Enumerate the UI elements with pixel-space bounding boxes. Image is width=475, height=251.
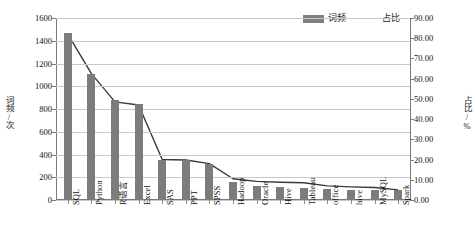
gridline (56, 109, 410, 110)
y-tick-label-right: 40.00 (414, 115, 433, 124)
y-tick-label-right: 30.00 (414, 135, 433, 144)
x-axis-labels: SQLPythonR语言ExcelSASPPTSPSSHadoopOracleH… (56, 202, 410, 251)
y-tick-label-right: 90.00 (414, 14, 433, 23)
y-tick-mark-right (410, 160, 414, 161)
y-tick-label-left: 200 (6, 173, 52, 182)
x-tick-label: Excel (143, 185, 152, 205)
y-tick-mark-right (410, 99, 414, 100)
y-axis-right: 0.0010.0020.0030.0040.0050.0060.0070.008… (414, 0, 462, 251)
y-tick-label-right: 60.00 (414, 75, 433, 84)
x-tick-label: office (331, 185, 340, 205)
y-tick-label-left: 400 (6, 151, 52, 160)
x-tick-label: Oracle (261, 182, 270, 205)
bar (64, 33, 72, 200)
y-tick-mark-left (52, 200, 56, 201)
y-tick-label-right: 20.00 (414, 156, 433, 165)
y-tick-mark-left (52, 18, 56, 19)
y-tick-mark-left (52, 155, 56, 156)
y-tick-mark-right (410, 180, 414, 181)
y-tick-label-left: 1600 (6, 14, 52, 23)
x-tick-label: Python (95, 180, 104, 205)
combo-chart: 词频 占比 词频/次 占比/% 020040060080010001200140… (0, 0, 475, 251)
y-tick-label-right: 80.00 (414, 34, 433, 43)
y-tick-label-left: 1200 (6, 60, 52, 69)
y-axis-left: 02004006008001000120014001600 (0, 0, 52, 251)
gridline (56, 41, 410, 42)
gridline (56, 86, 410, 87)
x-tick-label: Hive (284, 188, 293, 205)
x-tick-label: SQL (72, 189, 81, 205)
y-tick-label-right: 50.00 (414, 95, 433, 104)
y-axis-right-line (410, 18, 411, 200)
x-tick-label: Tableau (308, 178, 317, 205)
x-tick-label: Spark (402, 185, 411, 205)
y-tick-mark-right (410, 58, 414, 59)
y-tick-mark-left (52, 109, 56, 110)
y-tick-mark-left (52, 41, 56, 42)
gridline (56, 18, 410, 19)
y-tick-mark-right (410, 38, 414, 39)
gridline (56, 177, 410, 178)
y-tick-mark-right (410, 79, 414, 80)
y-tick-label-left: 1400 (6, 37, 52, 46)
y-tick-mark-left (52, 64, 56, 65)
y-tick-mark-right (410, 119, 414, 120)
y-tick-label-left: 800 (6, 105, 52, 114)
x-tick-label: hive (355, 190, 364, 205)
y-tick-mark-left (52, 86, 56, 87)
y-tick-label-left: 600 (6, 128, 52, 137)
y-tick-label-left: 1000 (6, 82, 52, 91)
y-tick-label-right: 10.00 (414, 176, 433, 185)
x-tick-label: SPSS (213, 186, 222, 205)
gridline (56, 132, 410, 133)
y-tick-label-right: 70.00 (414, 54, 433, 63)
x-tick-label: Hadoop (237, 177, 246, 205)
y-tick-mark-left (52, 132, 56, 133)
y-tick-label-right: 0.00 (414, 196, 429, 205)
plot-area (56, 18, 410, 200)
y-tick-mark-left (52, 177, 56, 178)
x-tick-label: R语言 (119, 181, 128, 205)
gridline (56, 64, 410, 65)
y-tick-label-left: 0 (6, 196, 52, 205)
x-tick-label: MySQL (379, 177, 388, 205)
y-tick-mark-right (410, 139, 414, 140)
x-tick-label: SAS (166, 189, 175, 205)
x-tick-label: PPT (190, 190, 199, 205)
y-axis-right-title: 占比/% (461, 96, 473, 130)
gridline (56, 155, 410, 156)
y-tick-mark-right (410, 18, 414, 19)
